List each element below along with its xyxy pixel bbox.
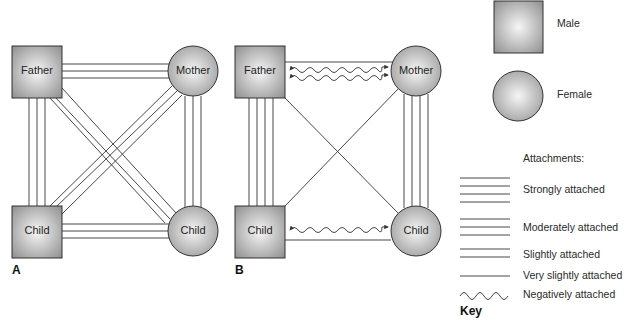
node-child-female-b: Child — [391, 223, 441, 237]
node-child-female-a: Child — [168, 223, 218, 237]
node-mother-a: Mother — [168, 63, 218, 77]
legend-attachments-title: Attachments: — [523, 152, 584, 164]
legend-negatively-label: Negatively attached — [523, 288, 615, 300]
node-child-male-b: Child — [235, 223, 285, 237]
legend-strongly-label: Strongly attached — [523, 183, 605, 195]
legend-female-label: Female — [557, 88, 592, 100]
node-mother-b: Mother — [391, 63, 441, 77]
node-father-a: Father — [12, 63, 62, 77]
legend-shapes — [493, 1, 543, 121]
node-child-male-a: Child — [12, 223, 62, 237]
legend-slightly-label: Slightly attached — [523, 248, 600, 260]
node-father-b: Father — [235, 63, 285, 77]
legend-male-label: Male — [557, 17, 580, 29]
legend-lines — [460, 178, 510, 300]
legend-key-label: Key — [460, 304, 482, 318]
legend-moderately-label: Moderately attached — [523, 221, 618, 233]
legend-very-slightly-label: Very slightly attached — [523, 269, 622, 281]
panel-label-b: B — [235, 263, 244, 277]
panel-label-a: A — [12, 263, 21, 277]
